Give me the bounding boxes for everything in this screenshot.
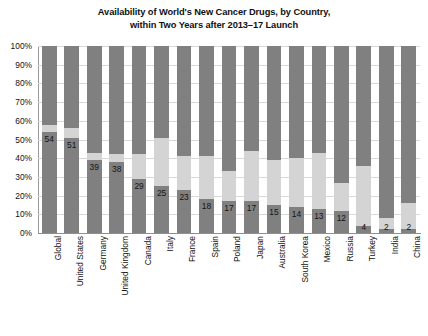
bar-segment xyxy=(312,46,327,153)
bar-value-label: 38 xyxy=(109,165,124,174)
bar-column[interactable]: 18 xyxy=(199,46,214,233)
x-category-label: Spain xyxy=(210,236,220,257)
x-category-label: Mexico xyxy=(322,236,332,263)
bar-column[interactable]: 14 xyxy=(289,46,304,233)
bar-segment xyxy=(267,160,282,205)
bar-segment xyxy=(401,46,416,203)
x-category-label: India xyxy=(390,236,400,254)
bar-column[interactable]: 29 xyxy=(132,46,147,233)
bar-value-label: 51 xyxy=(64,141,79,150)
x-category-label: Global xyxy=(53,236,63,260)
bar-segment xyxy=(312,153,327,209)
bar-segment xyxy=(199,156,214,199)
bar-value-label: 17 xyxy=(222,204,237,213)
bar-column[interactable]: 39 xyxy=(87,46,102,233)
y-tick-label: 100% xyxy=(0,41,32,51)
x-axis-category-labels: GlobalUnited StatesGermanyUnited Kingdom… xyxy=(38,236,421,336)
y-tick-label: 80% xyxy=(0,78,32,88)
x-category-label: United States xyxy=(75,236,85,286)
bar-segment xyxy=(199,46,214,156)
y-axis-tick-labels: 0%10%20%30%40%50%60%70%80%90%100% xyxy=(0,46,36,234)
bar-column[interactable]: 4 xyxy=(356,46,371,233)
x-category-label: Poland xyxy=(232,236,242,262)
bar-segment xyxy=(379,46,394,218)
bar-value-label: 29 xyxy=(132,182,147,191)
bar-segment xyxy=(109,154,124,161)
x-category-label: Canada xyxy=(143,236,153,265)
bar-segment xyxy=(334,46,349,183)
bar-value-label: 25 xyxy=(154,189,169,198)
bar-segment xyxy=(356,166,371,226)
bar-segment xyxy=(64,138,79,233)
bar-column[interactable]: 38 xyxy=(109,46,124,233)
bar-value-label: 54 xyxy=(42,135,57,144)
bar-value-label: 2 xyxy=(401,223,416,232)
chart-title-line-1: Availability of World's New Cancer Drugs… xyxy=(0,6,428,19)
y-tick-label: 30% xyxy=(0,171,32,181)
y-tick-label: 90% xyxy=(0,59,32,69)
bar-segment xyxy=(87,46,102,153)
x-category-label: Russia xyxy=(345,236,355,262)
bar-segment xyxy=(222,46,237,171)
bar-segment xyxy=(289,158,304,207)
bar-segment xyxy=(42,46,57,125)
x-category-label: Germany xyxy=(98,236,108,270)
bar-column[interactable]: 51 xyxy=(64,46,79,233)
bar-segment xyxy=(42,132,57,233)
bar-column[interactable]: 13 xyxy=(312,46,327,233)
y-tick-label: 20% xyxy=(0,190,32,200)
y-tick-label: 10% xyxy=(0,209,32,219)
bar-value-label: 18 xyxy=(199,202,214,211)
bar-column[interactable]: 54 xyxy=(42,46,57,233)
bar-segment xyxy=(244,46,259,151)
bar-segment xyxy=(132,46,147,154)
bar-column[interactable]: 23 xyxy=(177,46,192,233)
bar-segment xyxy=(42,125,57,132)
bar-segment xyxy=(154,138,169,187)
bar-series-group: 5451393829252318171715141312422 xyxy=(38,46,420,233)
bar-column[interactable]: 12 xyxy=(334,46,349,233)
bar-value-label: 12 xyxy=(334,214,349,223)
y-tick-label: 60% xyxy=(0,115,32,125)
bar-column[interactable]: 15 xyxy=(267,46,282,233)
plot-area: 5451393829252318171715141312422 xyxy=(38,46,420,233)
bar-segment xyxy=(356,46,371,166)
x-category-label: Japan xyxy=(255,236,265,259)
y-tick-label: 50% xyxy=(0,134,32,144)
bar-column[interactable]: 17 xyxy=(222,46,237,233)
bar-segment xyxy=(334,183,349,211)
bar-segment xyxy=(177,46,192,156)
bar-column[interactable]: 25 xyxy=(154,46,169,233)
bar-value-label: 17 xyxy=(244,204,259,213)
chart-root: Availability of World's New Cancer Drugs… xyxy=(0,0,428,336)
y-tick-label: 0% xyxy=(0,228,32,238)
bar-segment xyxy=(289,46,304,158)
bar-value-label: 14 xyxy=(289,210,304,219)
bar-column[interactable]: 17 xyxy=(244,46,259,233)
x-axis-line xyxy=(38,233,421,234)
bar-segment xyxy=(267,46,282,160)
x-category-label: Turkey xyxy=(367,236,377,261)
chart-title: Availability of World's New Cancer Drugs… xyxy=(0,6,428,31)
bar-segment xyxy=(64,128,79,137)
bar-value-label: 39 xyxy=(87,163,102,172)
y-tick-label: 40% xyxy=(0,153,32,163)
x-category-label: France xyxy=(187,236,197,262)
bar-column[interactable]: 2 xyxy=(379,46,394,233)
bar-column[interactable]: 2 xyxy=(401,46,416,233)
y-tick-label: 70% xyxy=(0,97,32,107)
bar-value-label: 13 xyxy=(312,212,327,221)
bar-value-label: 15 xyxy=(267,208,282,217)
x-category-label: Australia xyxy=(277,236,287,269)
bar-segment xyxy=(132,154,147,178)
bar-segment xyxy=(64,46,79,128)
bar-segment xyxy=(177,156,192,190)
bar-value-label: 2 xyxy=(379,223,394,232)
bar-value-label: 4 xyxy=(356,223,371,232)
bar-segment xyxy=(154,46,169,138)
x-category-label: Italy xyxy=(165,236,175,251)
bar-segment xyxy=(222,171,237,201)
bar-value-label: 23 xyxy=(177,193,192,202)
x-category-label: China xyxy=(412,236,422,258)
bar-segment xyxy=(109,46,124,154)
